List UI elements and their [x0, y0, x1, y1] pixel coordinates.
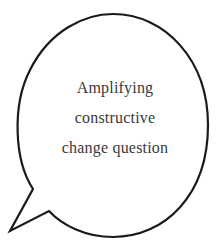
- bubble-text: Amplifying constructive change question: [30, 73, 200, 163]
- bubble-line-3: change question: [30, 133, 200, 163]
- bubble-line-2: constructive: [30, 103, 200, 133]
- speech-bubble-diagram: Amplifying constructive change question: [0, 0, 224, 248]
- bubble-line-1: Amplifying: [30, 73, 200, 103]
